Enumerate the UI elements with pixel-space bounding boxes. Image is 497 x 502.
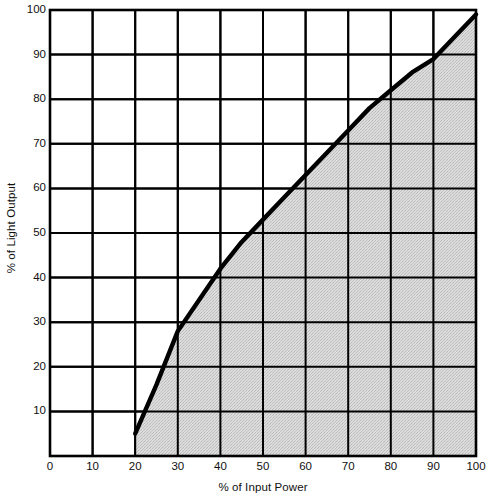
x-axis-label: % of Input Power	[50, 481, 476, 493]
plot-area	[0, 0, 497, 502]
chart-figure: % of Light Output 102030405060708090100 …	[0, 0, 497, 502]
x-axis-label-text: % of Input Power	[218, 481, 307, 493]
